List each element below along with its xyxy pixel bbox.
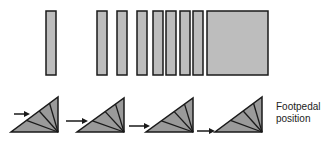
pedal-triangle — [197, 97, 262, 134]
bar — [117, 11, 127, 75]
arrow-icon — [14, 111, 30, 117]
bar — [180, 11, 190, 75]
bar — [166, 11, 176, 75]
arrow-icon — [197, 128, 215, 134]
bar — [97, 11, 107, 75]
bar — [137, 11, 147, 75]
triangle-shape — [77, 98, 124, 132]
large-square — [207, 11, 268, 75]
pedal-triangle — [66, 98, 124, 132]
triangle-shape — [215, 97, 262, 132]
label-line-2: position — [276, 113, 320, 125]
arrow-icon — [66, 118, 88, 124]
footpedal-position-label: Footpedal position — [276, 101, 320, 125]
triangle-shape — [146, 98, 193, 132]
triangle-row — [11, 97, 262, 134]
pedal-triangle — [11, 97, 58, 132]
pedal-triangle — [129, 98, 193, 132]
arrow-icon — [129, 123, 150, 129]
bar — [193, 11, 203, 75]
label-line-1: Footpedal — [276, 101, 320, 113]
bar — [46, 11, 56, 75]
bar — [153, 11, 163, 75]
bar-row — [46, 11, 268, 75]
